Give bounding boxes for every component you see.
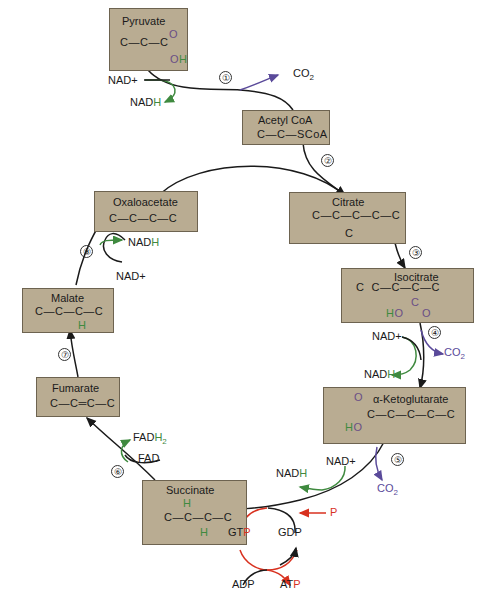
pyruvate-o: O — [169, 28, 178, 40]
succinate-h-bottom: H — [200, 526, 208, 538]
alpha-ketoglutarate-label: α-Ketoglutarate — [373, 393, 448, 405]
citrate-box: Citrate C—C—C—C—C C — [289, 192, 406, 244]
step-2: ② — [321, 154, 334, 167]
gtp-label: GTP — [228, 526, 251, 538]
acetyl-coa-formula: C—C—SCoA — [257, 128, 328, 140]
alpha-ketoglutarate-formula: C—C—C—C—C — [367, 408, 455, 420]
fumarate-formula: C—C═C—C — [50, 397, 115, 409]
step-4: ④ — [428, 326, 441, 339]
citrate-formula: C—C—C—C—C — [312, 209, 400, 221]
oxaloacetate-box: Oxaloacetate C—C—C—C — [94, 191, 198, 232]
step-8: ⑧ — [80, 245, 93, 258]
s4-nadh: NADH — [364, 368, 395, 380]
isocitrate-ho: HO — [386, 307, 404, 319]
s1-nad-plus: NAD+ — [108, 74, 138, 86]
alpha-ketoglutarate-box: α-Ketoglutarate O C—C—C—C—C HO — [323, 387, 466, 444]
alpha-ketoglutarate-ho: HO — [345, 421, 363, 433]
pyruvate-formula: C—C—C — [120, 36, 168, 48]
atp-label: ATP — [280, 578, 301, 590]
succinate-label: Succinate — [166, 484, 214, 496]
malate-formula: C—C—C—C — [35, 305, 103, 317]
s1-co2: CO2 — [293, 67, 314, 82]
malate-h: H — [78, 319, 86, 331]
citrate-label: Citrate — [332, 196, 364, 208]
malate-label: Malate — [51, 292, 84, 304]
isocitrate-c: C — [411, 296, 419, 308]
s5-nad-plus: NAD+ — [326, 455, 356, 467]
pyruvate-box: Pyruvate C—C—C O OH — [109, 8, 188, 71]
citrate-branch: C — [345, 227, 353, 239]
s5-nadh: NADH — [276, 467, 307, 479]
gdp-label: GDP — [278, 526, 302, 538]
step-3: ③ — [409, 246, 422, 259]
oxaloacetate-label: Oxaloacetate — [113, 196, 178, 208]
pyruvate-oh: OH — [170, 53, 188, 65]
phosphate-label: P — [330, 506, 337, 518]
acetyl-coa-box: Acetyl CoA C—C—SCoA — [242, 110, 330, 145]
isocitrate-box: Isocitrate C C—C—C—C C HO O — [341, 268, 474, 323]
s8-nadh: NADH — [128, 236, 159, 248]
s4-nad-plus: NAD+ — [372, 330, 402, 342]
step-6: ⑥ — [111, 465, 124, 478]
step-7: ⑦ — [58, 348, 71, 361]
acetyl-coa-label: Acetyl CoA — [258, 114, 312, 126]
succinate-formula: C—C—C—C — [164, 511, 232, 523]
s4-co2: CO2 — [444, 346, 465, 361]
s1-nadh: NADH — [130, 96, 161, 108]
pyruvate-label: Pyruvate — [122, 15, 165, 27]
s5-co2: CO2 — [377, 482, 398, 497]
fumarate-label: Fumarate — [52, 382, 99, 394]
malate-box: Malate C—C—C—C H — [22, 288, 114, 333]
succinate-h-top: H — [183, 497, 191, 509]
s8-nad-plus: NAD+ — [116, 270, 146, 282]
isocitrate-formula: C C—C—C—C — [356, 281, 440, 293]
alpha-ketoglutarate-o: O — [354, 391, 363, 403]
oxaloacetate-formula: C—C—C—C — [109, 212, 177, 224]
s6-fad: FAD — [138, 452, 159, 464]
fumarate-box: Fumarate C—C═C—C — [36, 377, 120, 417]
step-1: ① — [219, 71, 232, 84]
isocitrate-o: O — [422, 307, 431, 319]
adp-label: ADP — [232, 578, 255, 590]
step-5: ⑤ — [391, 453, 404, 466]
s6-fadh2: FADH2 — [133, 431, 167, 446]
